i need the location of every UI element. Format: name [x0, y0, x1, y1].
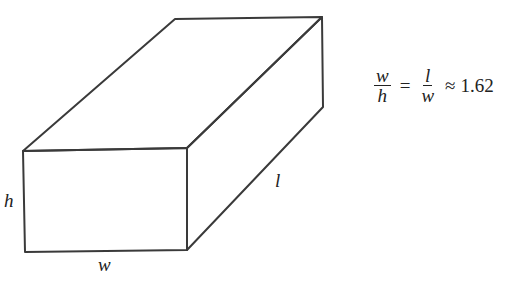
rectangular-box-diagram [0, 0, 507, 281]
fraction-w-over-h: w h [374, 66, 391, 105]
length-label: l [275, 170, 280, 192]
denominator: h [376, 86, 390, 105]
approx-sign: ≈ [445, 75, 455, 97]
golden-ratio-formula: w h = l w ≈ 1.62 [370, 66, 494, 105]
denominator: w [419, 86, 436, 105]
top-face [23, 17, 322, 151]
width-label: w [98, 254, 111, 276]
numerator: l [423, 66, 432, 86]
height-label: h [4, 190, 14, 212]
front-face [23, 148, 187, 252]
ratio-value: 1.62 [461, 75, 494, 97]
side-face [187, 17, 323, 250]
numerator: w [374, 66, 391, 86]
fraction-l-over-w: l w [419, 66, 436, 105]
equals-sign: = [400, 75, 411, 97]
